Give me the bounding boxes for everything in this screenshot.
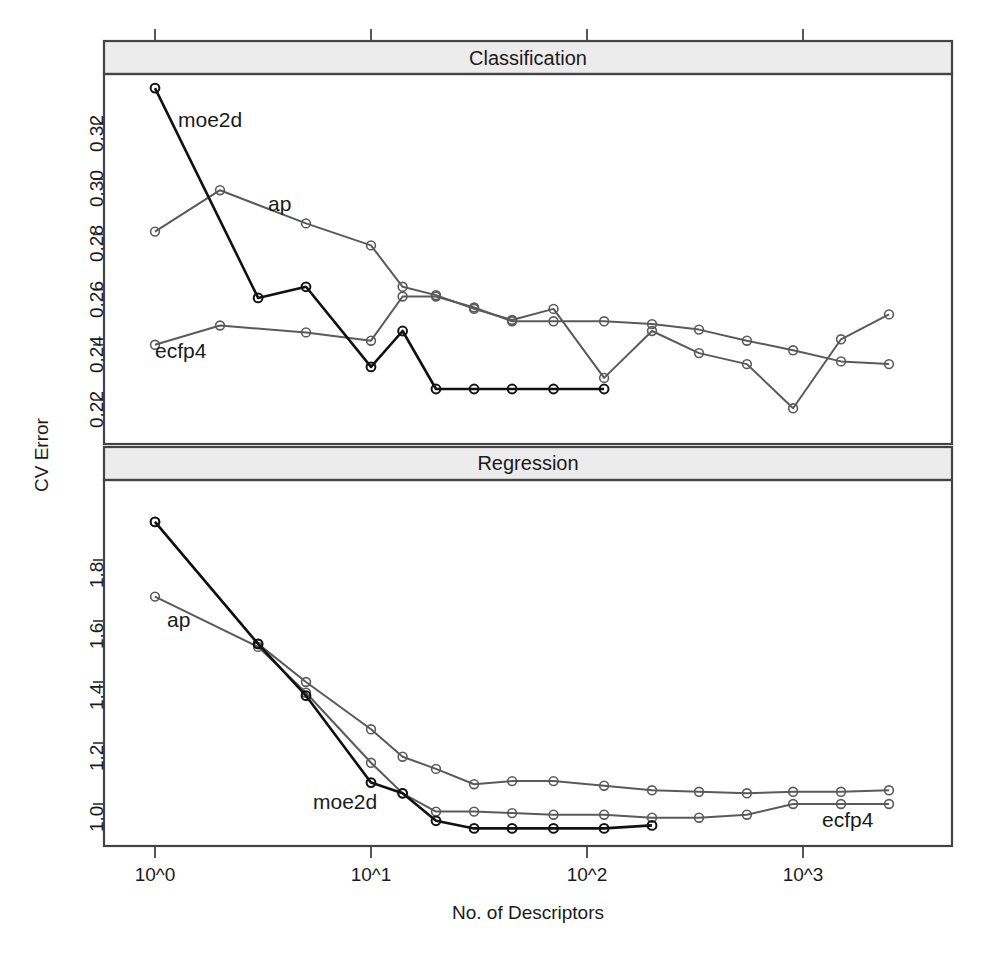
y-classification-tick-label-4: 0.30 [86,170,108,207]
y-classification-tick-label-0: 0.22 [86,391,108,428]
series-line-moe2d-classification [155,88,604,389]
series-ecfp4-classification [151,292,894,368]
x-tick-label-1: 10^1 [343,864,399,886]
series-label-moe2d-classification: moe2d [178,108,242,132]
y-regression-tick-label-3: 1.6 [86,623,108,649]
cv-error-figure: Classification Regression CV Error No. o… [0,0,987,955]
y-classification-tick-label-1: 0.24 [86,336,108,373]
series-label-ap-regression: ap [167,608,190,632]
series-ap-regression [151,592,894,822]
series-line-ap-regression [155,597,889,818]
x-tick-label-3: 10^3 [775,864,831,886]
x-tick-label-2: 10^2 [559,864,615,886]
series-line-ap-classification [155,190,889,408]
series-moe2d-regression [151,518,657,833]
y-classification-tick-label-5: 0.32 [86,115,108,152]
y-regression-tick-label-4: 1.8 [86,562,108,588]
series-label-ecfp4-classification: ecfp4 [155,339,206,363]
series-line-ecfp4-regression [155,522,889,793]
y-classification-tick-label-3: 0.28 [86,225,108,262]
panel-strip-title-regression: Regression [104,452,952,475]
series-label-moe2d-regression: moe2d [313,790,377,814]
y-regression-tick-label-1: 1.2 [86,745,108,771]
x-axis-title: No. of Descriptors [104,902,952,924]
y-axis-title: CV Error [31,418,53,492]
y-regression-tick-label-0: 1.0 [86,806,108,832]
x-tick-label-0: 10^0 [127,864,183,886]
y-classification-tick-label-2: 0.26 [86,281,108,318]
series-line-ecfp4-classification [155,297,889,365]
series-label-ap-classification: ap [268,192,291,216]
series-ecfp4-regression [151,518,894,798]
series-label-ecfp4-regression: ecfp4 [822,808,873,832]
y-regression-tick-label-2: 1.4 [86,684,108,710]
panel-strip-title-classification: Classification [104,47,952,70]
